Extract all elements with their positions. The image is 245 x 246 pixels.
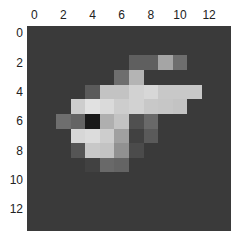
heatmap-cell (187, 26, 202, 41)
heatmap-cell (129, 216, 144, 231)
heatmap-cell (100, 216, 115, 231)
heatmap-cell (187, 129, 202, 144)
heatmap-cell (158, 158, 173, 173)
x-tick-label: 10 (173, 9, 186, 21)
heatmap-cell (129, 99, 144, 114)
heatmap-cell (85, 114, 100, 129)
heatmap-cell (216, 216, 231, 231)
heatmap-cell (173, 114, 188, 129)
heatmap-cell (173, 129, 188, 144)
heatmap-cell (158, 216, 173, 231)
heatmap-cell (56, 26, 71, 41)
heatmap-cell (187, 85, 202, 100)
heatmap-cell (85, 158, 100, 173)
heatmap-cell (144, 187, 159, 202)
heatmap-cell (100, 172, 115, 187)
y-tick-label: 8 (16, 145, 23, 157)
heatmap-cell (144, 26, 159, 41)
y-tick-label: 2 (16, 57, 23, 69)
heatmap-cell (27, 202, 42, 217)
heatmap-cell (158, 55, 173, 70)
heatmap-cell (85, 129, 100, 144)
heatmap-cell (71, 172, 86, 187)
heatmap-cell (42, 41, 57, 56)
heatmap-cell (173, 26, 188, 41)
heatmap-cell (216, 41, 231, 56)
heatmap-cell (85, 172, 100, 187)
heatmap-cell (71, 143, 86, 158)
heatmap-cell (173, 202, 188, 217)
heatmap-cell (202, 85, 217, 100)
heatmap-cell (129, 70, 144, 85)
heatmap-cell (173, 216, 188, 231)
heatmap-cell (158, 172, 173, 187)
heatmap-cell (158, 99, 173, 114)
heatmap-cell (27, 99, 42, 114)
heatmap-cell (71, 202, 86, 217)
y-tick-label: 6 (16, 115, 23, 127)
heatmap-cell (56, 202, 71, 217)
heatmap-cell (56, 129, 71, 144)
heatmap-cell (202, 41, 217, 56)
heatmap-cell (71, 26, 86, 41)
heatmap-cell (56, 187, 71, 202)
heatmap-cell (144, 55, 159, 70)
heatmap-cell (114, 114, 129, 129)
heatmap-cell (158, 129, 173, 144)
heatmap-cell (114, 70, 129, 85)
y-tick-label: 10 (10, 174, 23, 186)
heatmap-cell (187, 158, 202, 173)
heatmap-cell (56, 99, 71, 114)
heatmap-cell (85, 143, 100, 158)
heatmap-cell (144, 216, 159, 231)
heatmap-cell (202, 216, 217, 231)
heatmap-cell (187, 216, 202, 231)
heatmap-cell (27, 216, 42, 231)
heatmap-cell (42, 143, 57, 158)
heatmap-cell (187, 187, 202, 202)
heatmap-cell (129, 187, 144, 202)
heatmap-cell (27, 172, 42, 187)
heatmap-cell (187, 143, 202, 158)
x-tick-label: 2 (60, 9, 67, 21)
heatmap-cell (173, 85, 188, 100)
heatmap-cell (216, 26, 231, 41)
heatmap-cell (27, 114, 42, 129)
heatmap-cell (27, 158, 42, 173)
heatmap-cell (173, 99, 188, 114)
heatmap-cell (129, 114, 144, 129)
heatmap-cell (216, 114, 231, 129)
heatmap-cell (85, 99, 100, 114)
y-tick-label: 12 (10, 203, 23, 215)
heatmap-cell (173, 158, 188, 173)
heatmap-cell (144, 158, 159, 173)
heatmap-cell (129, 129, 144, 144)
heatmap-cell (202, 26, 217, 41)
heatmap-cell (85, 26, 100, 41)
heatmap-cell (71, 41, 86, 56)
heatmap-cell (216, 158, 231, 173)
heatmap-cell (71, 129, 86, 144)
heatmap-cell (158, 114, 173, 129)
heatmap-cell (56, 158, 71, 173)
heatmap-cell (216, 99, 231, 114)
heatmap-cell (129, 158, 144, 173)
heatmap-cell (114, 202, 129, 217)
heatmap-cell (27, 187, 42, 202)
heatmap-cell (114, 99, 129, 114)
heatmap-cell (173, 41, 188, 56)
heatmap-cell (187, 99, 202, 114)
heatmap-cell (114, 158, 129, 173)
heatmap-cell (187, 55, 202, 70)
heatmap-cell (114, 216, 129, 231)
heatmap-cell (100, 187, 115, 202)
y-tick-label: 0 (16, 27, 23, 39)
heatmap-cell (129, 202, 144, 217)
heatmap-cell (144, 99, 159, 114)
heatmap-cell (216, 143, 231, 158)
heatmap-cell (187, 41, 202, 56)
heatmap-cell (114, 143, 129, 158)
heatmap-cell (158, 187, 173, 202)
heatmap-cell (56, 143, 71, 158)
heatmap-cell (202, 158, 217, 173)
